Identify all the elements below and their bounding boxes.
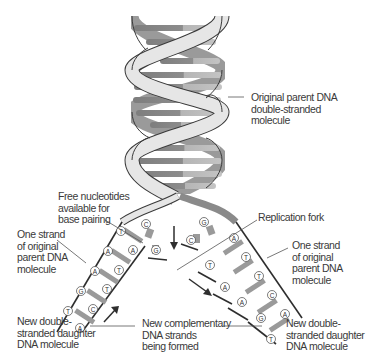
base-circle: C <box>268 291 277 300</box>
base-circle: G <box>257 314 266 323</box>
svg-text:G: G <box>258 315 263 322</box>
arrow-up-right-icon <box>104 306 119 322</box>
base-circle: A <box>91 267 100 276</box>
svg-text:A: A <box>106 248 111 255</box>
label-one-strand-right: One strand of original parent DNA molecu… <box>292 240 343 286</box>
label-new-complementary-strands: New complementary DNA strands being form… <box>142 318 231 353</box>
dna-replication-diagram: T A A G T A T T C A A T T <box>0 0 367 362</box>
svg-text:A: A <box>131 247 136 254</box>
parent-double-helix <box>132 16 222 200</box>
base-circle: T <box>242 253 251 262</box>
free-nucleotide: G <box>152 246 161 255</box>
svg-text:C: C <box>91 306 96 313</box>
svg-text:A: A <box>240 299 245 306</box>
free-nucleotide: G <box>200 218 209 227</box>
base-circle: G <box>77 287 86 296</box>
base-circle: A <box>104 247 113 256</box>
svg-text:G: G <box>201 219 206 226</box>
label-one-strand-left: One strand of original parent DNA molecu… <box>17 229 68 275</box>
base-circle: T <box>103 285 112 294</box>
svg-text:T: T <box>117 267 121 274</box>
svg-text:T: T <box>244 254 248 261</box>
svg-text:T: T <box>257 273 261 280</box>
base-circle: T <box>267 335 276 344</box>
free-nucleotide: C <box>187 236 196 245</box>
svg-text:G: G <box>153 247 158 254</box>
base-circle: T <box>206 261 215 270</box>
arrow-down-right-icon <box>189 279 212 296</box>
svg-text:C: C <box>189 237 194 244</box>
svg-text:T: T <box>208 262 212 269</box>
svg-text:A: A <box>93 268 98 275</box>
svg-text:T: T <box>269 336 273 343</box>
free-nucleotide: C <box>142 220 151 229</box>
label-new-daughter-left: New double- stranded daughter DNA molecu… <box>17 316 95 351</box>
base-circle: A <box>238 298 247 307</box>
base-circle: T <box>115 266 124 275</box>
base-circle: T <box>255 272 264 281</box>
base-circle: A <box>230 234 239 243</box>
svg-text:A: A <box>223 284 228 291</box>
svg-text:C: C <box>144 221 149 228</box>
arrow-down-icon <box>170 226 178 250</box>
label-replication-fork: Replication fork <box>258 212 324 224</box>
svg-text:T: T <box>105 286 109 293</box>
svg-text:C: C <box>270 292 275 299</box>
label-new-daughter-right: New double- stranded daughter DNA molecu… <box>286 318 364 353</box>
label-original-parent-dna: Original parent DNA double-stranded mole… <box>251 92 337 127</box>
fork-ribbons <box>122 196 236 222</box>
free-nucleotides: C G G C <box>142 218 216 261</box>
svg-text:T: T <box>66 308 70 315</box>
base-circle: C <box>89 305 98 314</box>
label-free-nucleotides: Free nucleotides available for base pair… <box>58 191 129 226</box>
base-circle: A <box>129 246 138 255</box>
svg-text:G: G <box>78 288 83 295</box>
base-circle: A <box>221 283 230 292</box>
